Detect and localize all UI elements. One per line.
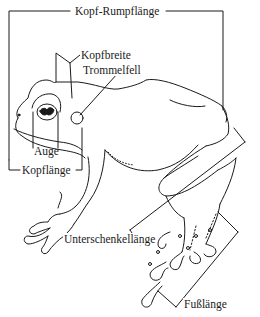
frog-illustration xyxy=(0,0,260,317)
kopf-rumpflaenge-label: Kopf-Rumpflänge xyxy=(74,5,160,17)
kopf-rumpflaenge-bracket xyxy=(9,11,223,160)
unterschenkellaenge-label: Unterschenkellänge xyxy=(63,233,156,245)
auge-label: Auge xyxy=(33,145,60,157)
fusslaenge-label: Fußlänge xyxy=(183,298,228,310)
frog-body xyxy=(14,79,236,307)
kopfbreite-bracket xyxy=(56,53,80,98)
kopflaenge-label: Kopflänge xyxy=(21,164,72,176)
kopfbreite-label: Kopfbreite xyxy=(80,49,132,61)
frog-measurement-diagram: Kopf-Rumpflänge Kopfbreite Trommelfell A… xyxy=(0,0,260,317)
fusslaenge-bracket xyxy=(158,212,238,307)
trommelfell-pointer xyxy=(80,73,118,115)
trommelfell-label: Trommelfell xyxy=(82,64,142,76)
